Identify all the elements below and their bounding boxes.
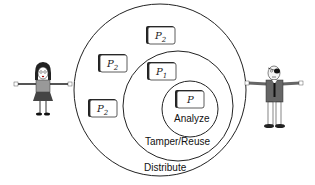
program-subscript: 1	[163, 72, 167, 80]
analyze-label: Analyze	[174, 113, 210, 124]
program-box-p2-left-lower: P2	[88, 99, 117, 117]
program-box-p2-left-upper: P2	[98, 54, 127, 72]
girl-figure-icon	[14, 62, 72, 116]
svg-text:P: P	[186, 94, 194, 105]
distribute-label: Distribute	[144, 162, 187, 173]
program-name: P	[186, 94, 194, 105]
program-box-p1: P1	[147, 62, 176, 80]
analyze-ring	[162, 81, 218, 137]
tamper-reuse-label: Tamper/Reuse	[145, 136, 210, 147]
program-box-p: P	[175, 90, 204, 108]
program-subscript: 2	[103, 109, 109, 117]
diagram-canvas: Distribute Tamper/Reuse Analyze P2 P2 P2…	[0, 0, 315, 185]
pirate-figure-icon	[245, 66, 303, 128]
program-subscript: 2	[161, 36, 167, 44]
program-box-p2-top: P2	[146, 26, 175, 44]
program-subscript: 2	[113, 64, 119, 72]
